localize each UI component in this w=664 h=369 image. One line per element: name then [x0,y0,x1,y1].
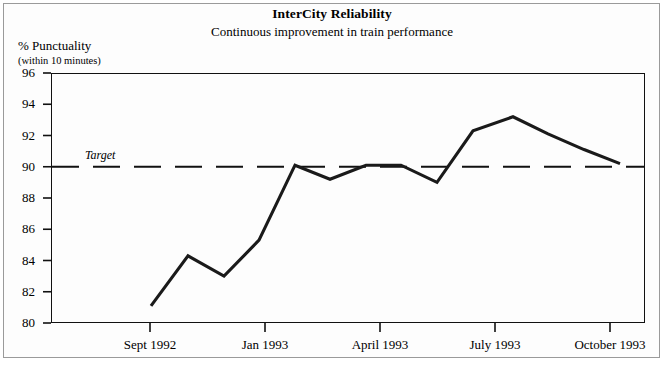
target-line-label: Target [85,148,115,163]
y-tick-label: 82 [5,284,35,300]
chart-subtitle: Continuous improvement in train performa… [0,24,664,40]
x-tick-label: July 1993 [470,337,521,353]
y-axis-label: % Punctuality [18,38,91,54]
y-tick-label: 86 [5,221,35,237]
plot-area [51,73,645,323]
x-tick-label: Sept 1992 [124,337,176,353]
chart-title: InterCity Reliability [0,6,664,22]
x-tick-label: Jan 1993 [242,337,289,353]
chart-container: InterCity Reliability Continuous improve… [0,0,664,369]
x-tick-label: April 1993 [352,337,409,353]
y-tick-label: 96 [5,65,35,81]
x-tick-label: October 1993 [574,337,645,353]
y-tick-label: 88 [5,190,35,206]
y-tick-label: 92 [5,128,35,144]
y-tick-label: 94 [5,96,35,112]
y-tick-label: 80 [5,315,35,331]
y-tick-label: 90 [5,159,35,175]
y-tick-label: 84 [5,253,35,269]
